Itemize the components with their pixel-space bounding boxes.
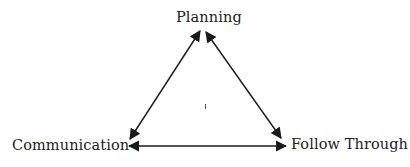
- center-mark: [205, 104, 206, 109]
- node-planning: Planning: [176, 10, 242, 25]
- node-communication: Communication: [12, 138, 129, 153]
- diagram-canvas: Planning Communication Follow Through: [0, 0, 410, 167]
- node-follow-through: Follow Through: [291, 137, 408, 152]
- edge-planning-communication: [130, 31, 200, 139]
- edge-planning-follow-through: [206, 32, 281, 138]
